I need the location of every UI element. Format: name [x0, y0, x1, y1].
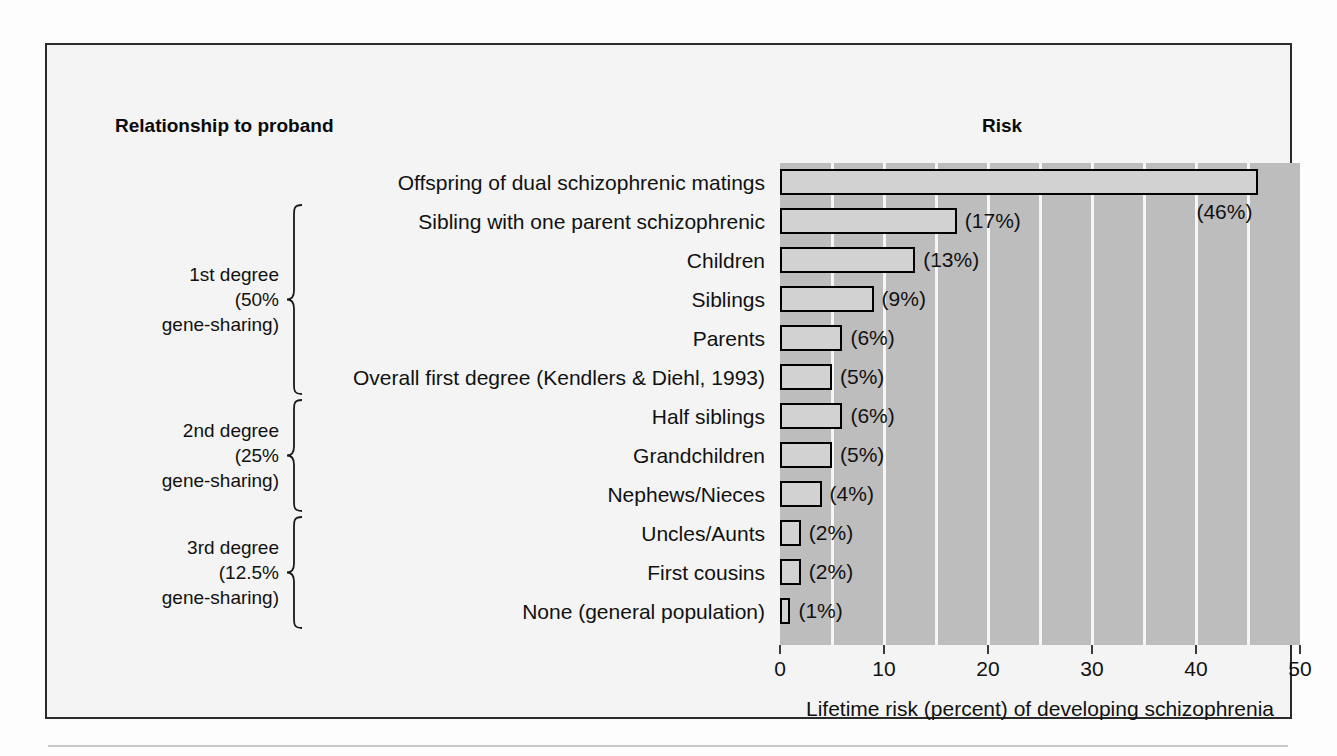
bar-value-label: (6%) — [850, 403, 894, 429]
bar-row: (1%) — [780, 592, 1300, 631]
axis-tick-label: 50 — [1288, 657, 1311, 681]
axis-tick — [1091, 645, 1093, 654]
group-brace-1 — [285, 204, 305, 395]
group-label-line: gene-sharing) — [162, 468, 279, 493]
figure-page: Relationship to proband Risk 1st degree(… — [0, 0, 1337, 756]
bar-row: (2%) — [780, 553, 1300, 592]
bar-value-label: (4%) — [830, 481, 874, 507]
bar-row: (4%) — [780, 475, 1300, 514]
bar — [780, 247, 915, 273]
page-divider-rule — [48, 745, 1288, 747]
bar — [780, 481, 822, 507]
bar-row: (13%) — [780, 241, 1300, 280]
column-header-risk: Risk — [982, 115, 1022, 137]
bar-row: (5%) — [780, 358, 1300, 397]
group-label-line: (25% — [162, 443, 279, 468]
group-label: 3rd degree(12.5%gene-sharing) — [162, 535, 279, 610]
category-label: Sibling with one parent schizophrenic — [418, 202, 765, 241]
bar — [780, 208, 957, 234]
axis-tick-label: 30 — [1080, 657, 1103, 681]
axis-tick — [779, 645, 781, 654]
bar-row: (17%) — [780, 202, 1300, 241]
group-label-line: gene-sharing) — [162, 585, 279, 610]
bar-row: (2%) — [780, 514, 1300, 553]
axis-tick-label: 10 — [872, 657, 895, 681]
bar-row: (46%) — [780, 163, 1300, 202]
category-label: First cousins — [647, 553, 765, 592]
category-label: Overall first degree (Kendlers & Diehl, … — [353, 358, 765, 397]
group-label: 1st degree(50%gene-sharing) — [162, 262, 279, 337]
category-label: Half siblings — [652, 397, 765, 436]
axis-tick-label: 40 — [1184, 657, 1207, 681]
bar — [780, 325, 842, 351]
x-axis-title: Lifetime risk (percent) of developing sc… — [780, 697, 1300, 721]
category-label: Children — [687, 241, 765, 280]
category-label: Grandchildren — [633, 436, 765, 475]
bar — [780, 520, 801, 546]
axis-tick — [1195, 645, 1197, 654]
group-label: 2nd degree(25%gene-sharing) — [162, 418, 279, 493]
column-header-relationship: Relationship to proband — [115, 115, 334, 137]
bar — [780, 364, 832, 390]
bar-row: (6%) — [780, 319, 1300, 358]
category-label: Nephews/Nieces — [607, 475, 765, 514]
bar-value-label: (2%) — [809, 559, 853, 585]
bar — [780, 559, 801, 585]
bar-row: (6%) — [780, 397, 1300, 436]
group-label-line: (12.5% — [162, 560, 279, 585]
category-label: Parents — [693, 319, 765, 358]
group-label-line: 1st degree — [162, 262, 279, 287]
group-label-line: 3rd degree — [162, 535, 279, 560]
axis-tick-label: 0 — [774, 657, 786, 681]
bar-row: (5%) — [780, 436, 1300, 475]
bar-value-label: (9%) — [882, 286, 926, 312]
bar-value-label: (13%) — [923, 247, 979, 273]
axis-tick — [883, 645, 885, 654]
axis-tick — [1299, 645, 1301, 654]
degree-group-brace-column: 1st degree(50%gene-sharing)2nd degree(25… — [167, 163, 307, 645]
figure-frame: Relationship to proband Risk 1st degree(… — [45, 43, 1292, 719]
bar — [780, 169, 1258, 195]
bar-row: (9%) — [780, 280, 1300, 319]
bar — [780, 442, 832, 468]
bar-value-label: (5%) — [840, 442, 884, 468]
group-label-line: (50% — [162, 287, 279, 312]
axis-tick — [987, 645, 989, 654]
group-label-line: 2nd degree — [162, 418, 279, 443]
x-axis: 01020304050 — [780, 645, 1300, 657]
group-label-line: gene-sharing) — [162, 312, 279, 337]
group-brace-2 — [285, 399, 305, 512]
bar — [780, 286, 874, 312]
bar-value-label: (1%) — [798, 598, 842, 624]
bar-value-label: (2%) — [809, 520, 853, 546]
bar-value-label: (5%) — [840, 364, 884, 390]
group-brace-3 — [285, 516, 305, 629]
bar — [780, 403, 842, 429]
bar-value-label: (6%) — [850, 325, 894, 351]
category-label: Offspring of dual schizophrenic matings — [398, 163, 765, 202]
axis-tick-label: 20 — [976, 657, 999, 681]
bar — [780, 598, 790, 624]
category-label: Siblings — [691, 280, 765, 319]
category-label: None (general population) — [522, 592, 765, 631]
category-label: Uncles/Aunts — [641, 514, 765, 553]
plot-area: (46%)(17%)(13%)(9%)(6%)(5%)(6%)(5%)(4%)(… — [780, 163, 1300, 645]
category-label-column: Offspring of dual schizophrenic matingsS… — [305, 163, 773, 645]
bar-value-label: (17%) — [965, 208, 1021, 234]
